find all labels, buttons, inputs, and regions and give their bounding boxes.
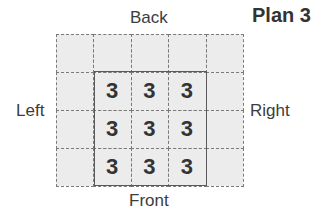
- grid-cell: [56, 110, 94, 149]
- grid-cell: [56, 72, 94, 111]
- grid-cell: [168, 34, 206, 73]
- building-footprint-border: [94, 71, 207, 186]
- label-right: Right: [250, 101, 290, 121]
- grid-cell: [93, 34, 131, 73]
- grid-cell: [56, 34, 94, 73]
- label-back: Back: [130, 8, 168, 28]
- grid-cell: [206, 148, 244, 187]
- grid-cell: [206, 72, 244, 111]
- label-front: Front: [129, 191, 169, 211]
- grid-cell: [131, 34, 169, 73]
- grid-cell: [206, 34, 244, 73]
- label-left: Left: [16, 101, 44, 121]
- grid-cell: [56, 148, 94, 187]
- plan-title: Plan 3: [252, 4, 311, 27]
- grid-cell: [206, 110, 244, 149]
